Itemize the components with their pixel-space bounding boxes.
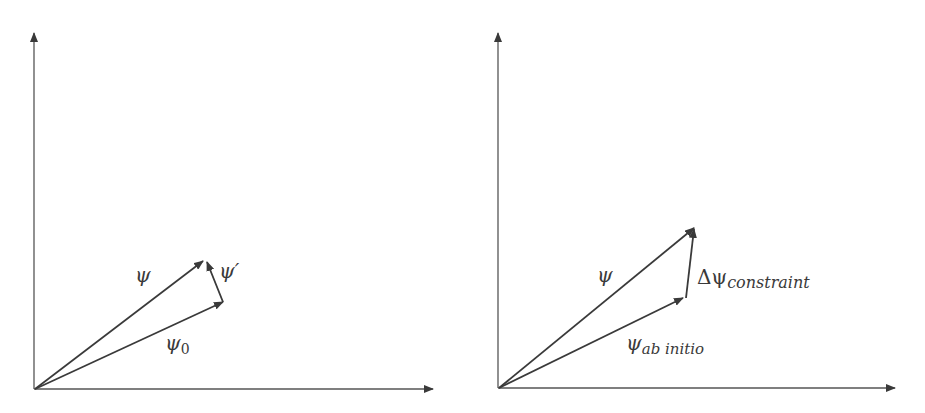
right-delta-psi-vector	[686, 229, 694, 298]
left-psi-label: ψ	[135, 263, 151, 287]
right-psi-ab-initio-label: ψab initio	[626, 331, 704, 358]
left-panel: ψ ψ0 ψ′	[34, 33, 433, 389]
left-psi-vector	[35, 261, 203, 389]
left-psi0-vector	[35, 302, 223, 389]
right-panel: ψ ψab initio Δψconstraint	[498, 33, 895, 388]
right-psi-label: ψ	[597, 263, 613, 287]
right-delta-psi-label: Δψconstraint	[697, 265, 810, 292]
vector-diagram: ψ ψ0 ψ′ ψ ψab initio Δψconstraint	[0, 0, 925, 413]
left-psi0-label: ψ0	[165, 331, 190, 357]
left-psi-prime-label: ψ′	[219, 259, 240, 283]
right-psi-vector	[499, 228, 694, 388]
